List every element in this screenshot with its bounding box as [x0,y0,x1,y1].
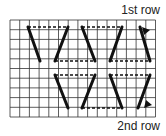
front-stitch [110,27,122,61]
first-row-label: 1st row [121,4,160,16]
front-stitch [110,75,122,108]
arrow-icon [144,100,152,108]
front-stitch [82,75,95,108]
front-stitch [82,27,95,61]
stitch-diagram [0,0,166,136]
second-row-label: 2nd row [117,120,160,132]
front-stitch [55,75,68,108]
front-stitch [55,27,68,61]
